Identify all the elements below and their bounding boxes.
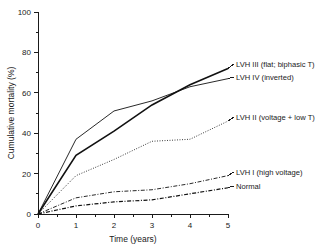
cumulative-mortality-chart: 0 20 40 60 80 100 0 1 2 3 4 5 Time (year… [0,0,317,249]
series-curve-4 [38,188,228,214]
x-tick-label-3: 3 [150,221,155,230]
y-tick-label-80: 80 [22,48,31,57]
x-tick-label-2: 2 [112,221,117,230]
series-label-normal: Normal [236,182,261,191]
series-curves-group [38,69,228,214]
leader-line-lvh1 [228,172,234,176]
y-tick-label-60: 60 [22,89,31,98]
series-curve-2 [38,121,228,214]
series-label-lvh3: LVH III (flat; biphasic T) [236,60,315,69]
x-tick-label-4: 4 [188,221,193,230]
y-tick-label-0: 0 [27,210,32,219]
y-tick-label-20: 20 [22,170,31,179]
leader-line-normal [228,186,234,188]
x-tick-label-0: 0 [36,221,41,230]
chart-svg: 0 20 40 60 80 100 0 1 2 3 4 5 Time (year… [0,0,317,249]
series-label-lvh2: LVH II (voltage + low T) [236,113,315,122]
series-label-lvh4: LVH IV (inverted) [236,73,294,82]
series-curve-3 [38,176,228,214]
y-tick-label-100: 100 [18,8,32,17]
x-axis-title: Time (years) [109,234,157,244]
series-label-lvh1: LVH I (high voltage) [236,168,303,177]
series-curve-1 [38,79,228,214]
y-tick-label-40: 40 [22,129,31,138]
leader-line-lvh4 [228,77,234,79]
y-axis-title: Cumulative mortality (%) [6,67,16,160]
leader-line-lvh3 [228,64,234,68]
label-leader-lines [228,64,234,188]
x-tick-label-5: 5 [226,221,231,230]
leader-line-lvh2 [228,117,234,121]
x-tick-label-1: 1 [74,221,79,230]
series-curve-0 [38,69,228,214]
